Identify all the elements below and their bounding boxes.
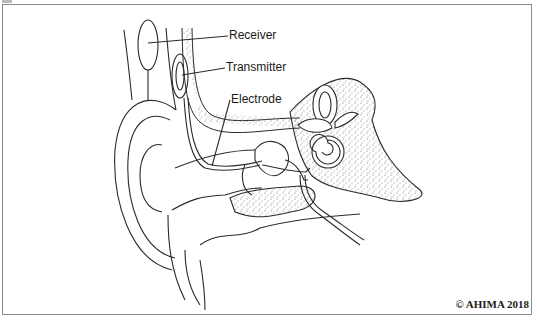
ear-illustration [0,0,537,320]
electrode-leader [212,100,230,166]
transmitter-device [172,54,188,98]
transmitter-leader [182,68,225,75]
receiver-device [138,20,158,70]
label-receiver: Receiver [229,28,276,42]
label-transmitter: Transmitter [226,60,286,74]
copyright-notice: © AHIMA 2018 [455,298,529,310]
label-electrode: Electrode [231,92,282,106]
